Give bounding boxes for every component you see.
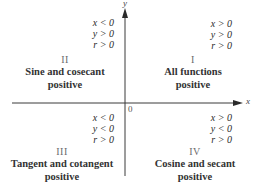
quadrant-2-conditions: x < 0 y > 0 r > 0	[82, 17, 114, 50]
quadrant-3-line2: positive	[0, 170, 124, 183]
quadrant-1-condition-x: x > 0	[200, 18, 232, 29]
quadrant-4-condition-y: y < 0	[200, 123, 232, 134]
quadrant-4-condition-r: r > 0	[200, 134, 232, 145]
quadrant-4-conditions: x > 0 y < 0 r > 0	[200, 112, 232, 145]
quadrant-1-description: All functions positive	[148, 65, 238, 91]
quadrant-3-description: Tangent and cotangent positive	[0, 157, 124, 183]
x-axis-label: x	[246, 96, 250, 106]
quadrant-2-condition-r: r > 0	[82, 39, 114, 50]
quadrant-4-condition-x: x > 0	[200, 112, 232, 123]
quadrant-2-description: Sine and cosecant positive	[0, 65, 130, 91]
quadrant-2-condition-y: y > 0	[82, 28, 114, 39]
quadrant-1-line1: All functions	[148, 65, 238, 78]
origin-label: 0	[128, 104, 133, 114]
quadrant-3-condition-x: x < 0	[82, 112, 114, 123]
quadrant-4-line1: Cosine and secant	[140, 157, 250, 170]
quadrant-2-condition-x: x < 0	[82, 17, 114, 28]
quadrant-1-line2: positive	[148, 78, 238, 91]
x-axis-arrow-icon	[233, 100, 243, 106]
quadrant-3-condition-y: y < 0	[82, 123, 114, 134]
quadrant-4-line2: positive	[140, 170, 250, 183]
quadrant-4-description: Cosine and secant positive	[140, 157, 250, 183]
y-axis-arrow-icon	[122, 8, 128, 18]
quadrant-1-numeral: I	[148, 54, 238, 65]
quadrant-1-condition-r: r > 0	[200, 40, 232, 51]
quadrant-1-conditions: x > 0 y > 0 r > 0	[200, 18, 232, 51]
y-axis-label: y	[123, 0, 127, 8]
quadrant-3-line1: Tangent and cotangent	[0, 157, 124, 170]
quadrant-4-numeral: IV	[140, 146, 250, 157]
quadrant-3-conditions: x < 0 y < 0 r > 0	[82, 112, 114, 145]
quadrant-2-line2: positive	[0, 78, 130, 91]
quadrant-2-line1: Sine and cosecant	[0, 65, 130, 78]
quadrant-1-condition-y: y > 0	[200, 29, 232, 40]
quadrant-3-numeral: III	[0, 146, 124, 157]
quadrant-2-numeral: II	[0, 54, 130, 65]
quadrant-3-condition-r: r > 0	[82, 134, 114, 145]
